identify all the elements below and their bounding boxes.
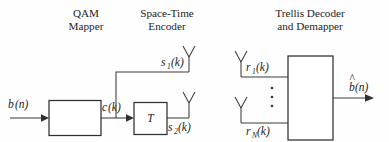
output-signal-arg: (n): [355, 81, 369, 94]
tx-stream-1-arg: (k): [171, 56, 184, 69]
transmit-antenna-1-icon: [183, 46, 195, 72]
input-signal-arg: (n): [15, 98, 29, 111]
heading-qam-mapper-line1: QAM: [73, 7, 99, 19]
rx-stream-1-arg: (k): [256, 61, 269, 74]
trellis-decoder-block: [288, 56, 333, 140]
heading-space-time-line2: Encoder: [148, 20, 186, 32]
mapper-output-arg: (k): [108, 101, 121, 114]
heading-space-time-line1: Space-Time: [140, 7, 194, 19]
output-arrow-icon: [365, 94, 374, 102]
mapper-output-label: c (k): [102, 101, 121, 114]
tx-stream-2-base: s: [168, 121, 173, 133]
figure-container: QAM Mapper Space-Time Encoder Trellis De…: [0, 0, 389, 142]
receive-antenna-n-icon: [235, 97, 247, 123]
tx-stream-2-label: s 2 (k): [168, 121, 191, 136]
rx-stream-1-base: r: [246, 61, 251, 73]
heading-qam-mapper-line2: Mapper: [69, 20, 104, 32]
tx-stream-1-label: s 1 (k): [161, 56, 184, 71]
qam-mapper-block: [49, 101, 101, 136]
heading-decoder-line1: Trellis Decoder: [275, 7, 345, 19]
rx-stream-1-label: r 1 (k): [246, 61, 269, 76]
output-signal-label: ^ b (n): [349, 72, 369, 94]
ellipsis-dot-2: [271, 96, 274, 99]
rx-stream-n-label: r N (k): [246, 125, 270, 140]
tx-stream-1-base: s: [161, 56, 166, 68]
rx-stream-n-arg: (k): [257, 125, 270, 138]
tx-stream-2-arg: (k): [178, 121, 191, 134]
input-signal-base: b: [8, 98, 14, 110]
input-signal-label: b (n): [8, 98, 29, 111]
heading-trellis-decoder: Trellis Decoder and Demapper: [275, 7, 345, 32]
ellipsis-dot-3: [271, 105, 274, 108]
heading-decoder-line2: and Demapper: [277, 20, 343, 32]
heading-space-time-encoder: Space-Time Encoder: [140, 7, 194, 32]
heading-qam-mapper: QAM Mapper: [69, 7, 104, 32]
block-diagram-canvas: QAM Mapper Space-Time Encoder Trellis De…: [0, 0, 389, 142]
ellipsis-dot-1: [271, 87, 274, 90]
input-arrow-icon: [41, 114, 49, 122]
delay-input-arrow-icon: [126, 114, 134, 122]
receiver-vertical-ellipsis: [271, 87, 274, 108]
mapper-output-base: c: [102, 101, 107, 113]
transmit-antenna-2-icon: [183, 92, 195, 118]
rx-stream-n-base: r: [246, 125, 251, 137]
